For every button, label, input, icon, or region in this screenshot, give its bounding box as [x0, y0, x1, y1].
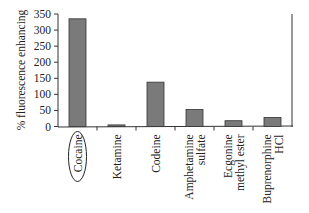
x-tick-label: HCl [273, 135, 285, 154]
x-tick-label-group: Ketamine [111, 135, 123, 180]
bars [69, 19, 281, 127]
x-tick-labels: CocaineKetamineCodeineAmphetaminesulfate… [69, 132, 285, 204]
x-tick-label-group: Cocaine [69, 132, 87, 182]
y-tick-label: 100 [34, 88, 52, 100]
y-tick-label: 350 [34, 8, 52, 20]
bar-ecgonine-methyl-ester [225, 121, 242, 127]
y-tick-label: 300 [34, 24, 52, 36]
y-tick-label: 250 [34, 40, 52, 52]
y-ticks: 050100150200250300350 [34, 8, 58, 133]
bar-ketamine [108, 125, 125, 127]
x-tick-label-group: Codeine [150, 135, 162, 173]
x-tick-label: Ketamine [111, 135, 123, 180]
x-tick-label-group: Amphetaminesulfate [183, 135, 207, 200]
x-tick-label-group: Ecgoninemethyl ester [222, 134, 247, 191]
x-tick-label: Cocaine [72, 135, 84, 173]
y-tick-label: 150 [34, 72, 52, 84]
y-tick-label: 50 [40, 104, 52, 116]
bar-chart: % fluorescence enhancing 050100150200250… [0, 0, 309, 213]
x-tick-label: methyl ester [234, 134, 247, 191]
bar-amphetamine-sulfate [186, 109, 203, 126]
y-axis-label: % fluorescence enhancing [15, 9, 28, 130]
x-tick-label: sulfate [195, 135, 207, 166]
x-tick-label: Codeine [150, 135, 162, 173]
bar-buprenorphine-hcl [264, 118, 281, 127]
bar-codeine [147, 82, 164, 126]
y-tick-label: 200 [34, 56, 52, 68]
x-tick-label-group: BuprenorphineHCl [261, 135, 285, 204]
y-tick-label: 0 [45, 121, 51, 133]
bar-cocaine [69, 19, 86, 127]
